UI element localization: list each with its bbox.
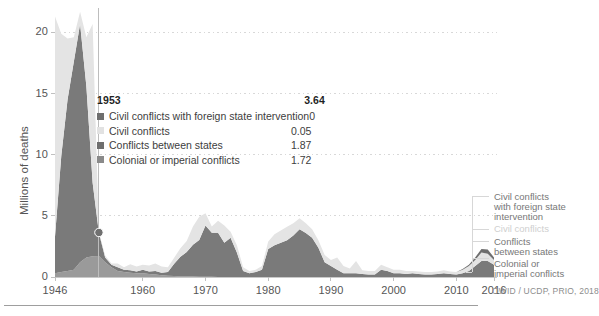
series-label-line[interactable]: imperial conflicts [494, 269, 564, 280]
y-tick-label: 5 [10, 209, 48, 221]
tooltip-series-value: 0.05 [291, 125, 325, 137]
series-label-line[interactable]: between states [494, 247, 558, 258]
x-tick-label: 1960 [120, 284, 166, 296]
tooltip-series-label: Civil conflicts [109, 125, 291, 137]
selection-marker[interactable] [95, 228, 103, 236]
tooltip-row: Civil conflicts0.05 [97, 125, 325, 137]
x-tick-label: 1980 [245, 284, 291, 296]
tooltip-row: Colonial or imperial conflicts1.72 [97, 154, 325, 166]
tooltip-series-value: 1.72 [291, 154, 325, 166]
y-tick-label: 10 [10, 148, 48, 160]
tooltip-series-label: Conflicts between states [109, 139, 291, 151]
x-tick-label: 1970 [183, 284, 229, 296]
tooltip-series-value: 0 [309, 110, 343, 122]
y-tick-label: 15 [10, 87, 48, 99]
tooltip-rows: Civil conflicts with foreign state inter… [97, 110, 325, 166]
x-tick-label: 1946 [32, 284, 78, 296]
tooltip-swatch-icon [97, 156, 104, 163]
y-axis-title: Millions of deaths [18, 126, 30, 215]
tooltip-swatch-icon [97, 142, 104, 149]
source-note: OWID / UCDP, PRIO, 2018 [492, 286, 599, 296]
tooltip-series-label: Civil conflicts with foreign state inter… [109, 110, 309, 122]
tooltip-swatch-icon [97, 127, 104, 134]
y-tick-label: 0 [10, 270, 48, 282]
tooltip-series-value: 1.87 [291, 139, 325, 151]
x-tick-label: 2000 [371, 284, 417, 296]
tooltip-total: 3.64 [304, 94, 325, 106]
tooltip-swatch-icon [97, 113, 104, 120]
tooltip-row: Civil conflicts with foreign state inter… [97, 110, 325, 122]
y-tick-label: 20 [10, 25, 48, 37]
x-tick-label: 1990 [308, 284, 354, 296]
chart-container: Millions of deaths 05101520 194619601970… [0, 0, 599, 316]
tooltip-series-label: Colonial or imperial conflicts [109, 154, 291, 166]
series-label-line[interactable]: Civil conflicts [494, 224, 549, 235]
tooltip-header: 1953 3.64 [97, 94, 325, 106]
tooltip-year: 1953 [97, 94, 121, 106]
tooltip: 1953 3.64 Civil conflicts with foreign s… [97, 94, 325, 168]
tooltip-row: Conflicts between states1.87 [97, 139, 325, 151]
series-label-line[interactable]: intervention [494, 212, 543, 223]
